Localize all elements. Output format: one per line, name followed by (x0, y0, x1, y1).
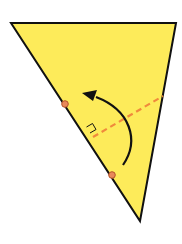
lower-point (109, 172, 116, 179)
diagram-canvas (0, 0, 182, 244)
triangle (11, 23, 176, 221)
triangle-fold-diagram (0, 0, 182, 244)
upper-point (62, 101, 69, 108)
